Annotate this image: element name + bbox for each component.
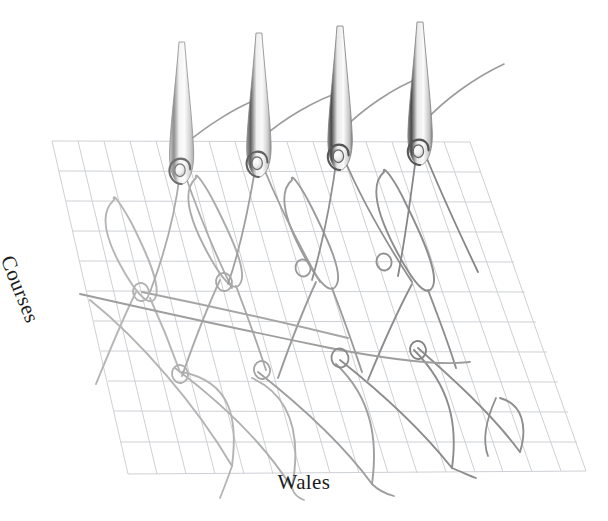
- needle-3[interactable]: [328, 26, 352, 170]
- figure-canvas: Wales Courses: [0, 0, 608, 521]
- needle-2[interactable]: [247, 33, 271, 177]
- needle-1[interactable]: [169, 42, 193, 184]
- axis-label-wales: Wales: [0, 470, 608, 495]
- yarn-needle-legs: [150, 149, 478, 292]
- knitting-diagram-svg: [0, 0, 608, 521]
- needle-4[interactable]: [408, 22, 432, 165]
